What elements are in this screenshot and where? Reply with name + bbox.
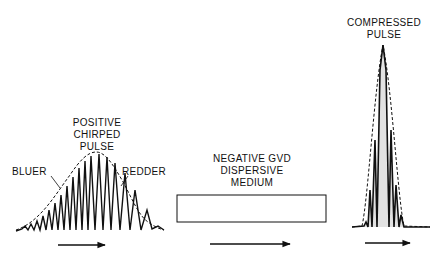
chirped-pulse-title-line-1: POSITIVE xyxy=(62,117,132,129)
dispersive-medium xyxy=(177,195,326,244)
bluer-label: BLUER xyxy=(12,166,47,178)
chirped-pulse-title: POSITIVE CHIRPED PULSE xyxy=(62,117,132,153)
compressed-pulse-title: COMPRESSED PULSE xyxy=(344,17,424,41)
medium-title: NEGATIVE GVD DISPERSIVE MEDIUM xyxy=(206,153,298,189)
compressed-pulse xyxy=(352,45,430,243)
medium-slab xyxy=(177,195,326,222)
redder-label: REDDER xyxy=(122,166,166,178)
pulse-compression-diagram: POSITIVE CHIRPED PULSE BLUER REDDER NEGA… xyxy=(0,0,442,260)
medium-title-line-2: DISPERSIVE xyxy=(206,165,298,177)
compressed-pulse-title-line-1: COMPRESSED xyxy=(344,17,424,29)
chirped-pulse-title-line-2: CHIRPED xyxy=(62,129,132,141)
chirped-pulse-title-line-3: PULSE xyxy=(62,141,132,153)
compressed-pulse-title-line-2: PULSE xyxy=(344,29,424,41)
medium-title-line-3: MEDIUM xyxy=(206,177,298,189)
bluer-leader-line xyxy=(51,176,60,188)
compressed-pulse-carrier xyxy=(352,45,430,227)
medium-title-line-1: NEGATIVE GVD xyxy=(206,153,298,165)
